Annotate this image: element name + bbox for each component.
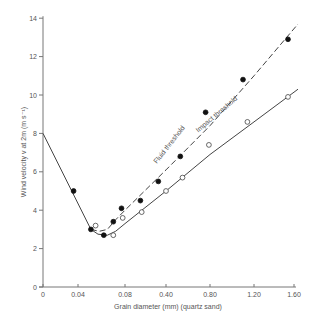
fluid-threshold-point <box>119 206 124 211</box>
y-tick-label: 0 <box>33 284 37 291</box>
threshold-curves <box>43 24 298 235</box>
impact-threshold-label: Impact threshold <box>194 95 239 134</box>
y-tick-label: 10 <box>29 92 37 99</box>
x-tick-label: 0.40 <box>159 291 173 298</box>
y-tick-label: 8 <box>33 130 37 137</box>
fluid-threshold-point <box>156 179 161 184</box>
y-tick-label: 4 <box>33 207 37 214</box>
common-fine-grain-branch-curve <box>43 133 91 229</box>
x-tick-label: 0.08 <box>118 291 132 298</box>
y-tick-label: 12 <box>29 53 37 60</box>
fluid-threshold-point <box>203 110 208 115</box>
impact-threshold-point <box>207 143 212 148</box>
impact-threshold-point <box>120 216 125 221</box>
fluid-threshold-point <box>138 198 143 203</box>
fluid-threshold-point <box>101 233 106 238</box>
impact-threshold-point <box>164 189 169 194</box>
fluid-threshold-point <box>89 227 94 232</box>
fluid-threshold-point <box>178 154 183 159</box>
y-tick-label: 14 <box>29 15 37 22</box>
y-axis-title: Wind velocity v at 2m (m s⁻¹) <box>20 107 28 197</box>
impact-threshold-point <box>286 95 291 100</box>
x-tick-label: 0 <box>41 291 45 298</box>
impact-threshold-point <box>180 175 185 180</box>
fluid-threshold-point <box>241 77 246 82</box>
chart: 0246810121400.040.080.400.801.201.60 Gra… <box>0 0 314 324</box>
impact-threshold-point <box>111 233 116 238</box>
y-tick-label: 6 <box>33 168 37 175</box>
fluid-threshold-point <box>71 189 76 194</box>
fluid-threshold-point <box>111 219 116 224</box>
x-tick-label: 0.04 <box>71 291 85 298</box>
data-markers <box>71 37 290 238</box>
axes: 0246810121400.040.080.400.801.201.60 <box>29 15 301 298</box>
x-tick-label: 1.20 <box>247 291 261 298</box>
x-tick-label: 0.80 <box>203 291 217 298</box>
x-axis-title: Grain diameter (mm) (quartz sand) <box>114 303 222 311</box>
x-tick-label: 1.60 <box>287 291 301 298</box>
y-tick-label: 2 <box>33 245 37 252</box>
impact-threshold-point <box>93 223 98 228</box>
impact-threshold-point <box>139 210 144 215</box>
impact-threshold-point <box>245 120 250 125</box>
fluid-threshold-point <box>286 37 291 42</box>
